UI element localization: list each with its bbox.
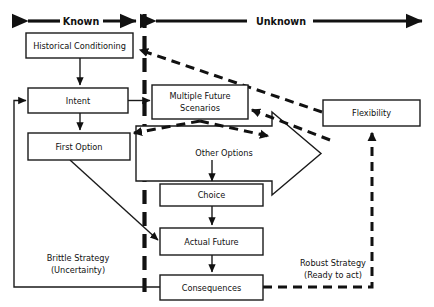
unknown-label: Unknown [256,16,306,27]
other-options-label: Other Options [195,148,252,158]
box-label-scenarios-line2: Scenarios [180,103,220,113]
box-label-actual-future: Actual Future [184,237,238,247]
box-label-historical-conditioning: Historical Conditioning [33,41,126,51]
robust-strategy-label-line1: Robust Strategy [300,258,366,268]
known-label: Known [63,16,100,27]
box-multiple-future-scenarios[interactable]: Multiple Future Scenarios [152,85,248,119]
box-label-intent: Intent [66,96,91,106]
box-label-first-option: First Option [55,142,102,152]
box-consequences[interactable]: Consequences [160,275,263,300]
box-first-option[interactable]: First Option [28,133,130,160]
box-choice[interactable]: Choice [160,184,263,206]
brittle-strategy-label-line2: (Uncertainty) [51,265,105,275]
brittle-strategy-label-line1: Brittle Strategy [47,253,110,263]
diagram-svg: Known Unknown Other Options Brittle Stra… [0,0,434,307]
robust-strategy-label-line2: (Ready to act) [304,270,362,280]
box-actual-future[interactable]: Actual Future [160,228,263,255]
box-flexibility[interactable]: Flexibility [323,100,420,126]
box-label-consequences: Consequences [182,283,242,293]
box-label-choice: Choice [198,190,226,200]
box-intent[interactable]: Intent [28,88,128,113]
box-historical-conditioning[interactable]: Historical Conditioning [26,33,133,58]
box-label-scenarios-line1: Multiple Future [169,91,230,101]
box-label-flexibility: Flexibility [352,108,391,118]
diagram-canvas: Known Unknown Other Options Brittle Stra… [0,0,434,307]
